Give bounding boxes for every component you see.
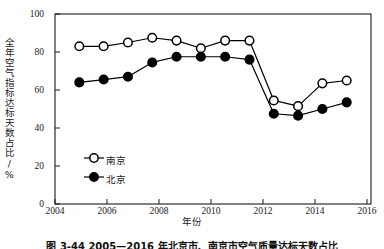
data-point <box>269 109 278 118</box>
series-line <box>79 57 346 116</box>
legend-swatch-nanjing <box>84 154 104 162</box>
data-point <box>75 42 84 51</box>
data-point <box>197 44 206 53</box>
figure-container: 全年空气指标达标天数占比/% 100 80 60 40 20 0 2004 20… <box>0 0 384 249</box>
data-point <box>99 75 108 84</box>
data-point <box>99 42 108 51</box>
data-point <box>294 111 303 120</box>
series-open <box>75 33 351 110</box>
x-axis-ticks <box>55 199 367 204</box>
y-axis-ticks <box>55 14 60 204</box>
data-point <box>75 78 84 87</box>
data-point <box>342 98 351 107</box>
data-point <box>148 33 157 42</box>
data-point <box>148 58 157 67</box>
chart-plot-area <box>0 0 384 249</box>
data-point <box>172 36 181 45</box>
data-point <box>245 55 254 64</box>
data-point <box>269 96 278 105</box>
data-series-layer <box>75 33 351 120</box>
data-point <box>221 52 230 61</box>
data-point <box>318 79 327 88</box>
series-filled <box>75 52 351 120</box>
series-line <box>79 38 346 106</box>
data-point <box>294 102 303 111</box>
legend-swatch-beijing <box>84 173 104 181</box>
data-point <box>221 36 230 45</box>
data-point <box>124 38 133 47</box>
data-point <box>342 76 351 85</box>
data-point <box>172 52 181 61</box>
figure-caption: 图 3-44 2005—2016 年北京市、南京市空气质量达标天数占比 <box>0 238 384 249</box>
data-point <box>124 72 133 81</box>
data-point <box>245 36 254 45</box>
data-point <box>197 52 206 61</box>
data-point <box>318 105 327 114</box>
